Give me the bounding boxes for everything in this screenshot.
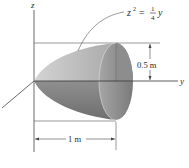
equation-lhs-exponent: 2 [133,6,136,12]
equation-lhs-var: z [126,7,131,18]
y-axis-label: y [179,76,184,86]
equation-fraction-numerator: 1 [151,5,155,13]
arrow-down-icon [149,76,152,80]
end-face-upper-quarter [116,43,133,82]
equation-equals: = [139,7,145,18]
radius-label: 0.5 m [137,60,157,70]
length-dimension: 1 m [35,122,116,150]
arrow-up-icon [149,44,152,48]
length-label: 1 m [68,134,81,144]
paraboloid-equation: z 2 = 1 4 y [126,5,163,22]
x-axis [2,81,34,108]
z-axis-label: z [30,0,35,10]
arrow-left-icon [35,138,39,141]
equation-rhs-var: y [157,7,163,18]
arrow-right-icon [111,138,115,141]
paraboloid-diagram: z y z 2 = 1 4 y 0.5 m 1 m [0,0,189,168]
radius-dimension: 0.5 m [137,44,157,80]
equation-fraction-denominator: 4 [151,14,155,22]
